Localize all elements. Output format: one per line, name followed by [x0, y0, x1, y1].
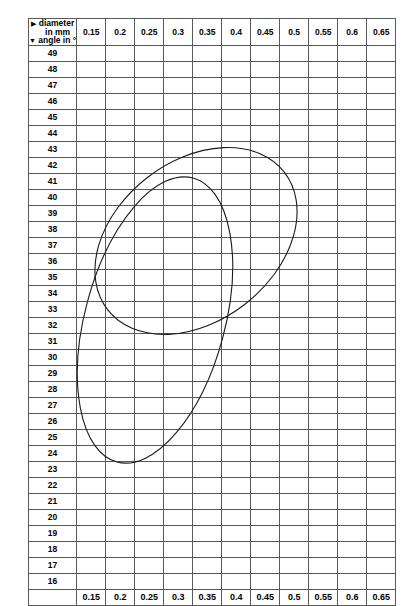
- cell-18-0.6: [338, 541, 367, 557]
- cell-45-0.5: [280, 109, 309, 125]
- cell-24-0.3: [164, 445, 193, 461]
- footer-column-0.15: 0.15: [77, 589, 106, 605]
- cell-42-0.4: [222, 157, 251, 173]
- row-header-30: 30: [29, 349, 77, 365]
- angle-label: angle in °: [38, 35, 76, 45]
- cell-17-0.4: [222, 557, 251, 573]
- row-header-25: 25: [29, 429, 77, 445]
- cell-31-0.15: [77, 333, 106, 349]
- cell-48-0.5: [280, 61, 309, 77]
- cell-23-0.45: [251, 461, 280, 477]
- cell-25-0.45: [251, 429, 280, 445]
- cell-23-0.4: [222, 461, 251, 477]
- cell-25-0.4: [222, 429, 251, 445]
- cell-18-0.2: [106, 541, 135, 557]
- cell-19-0.15: [77, 525, 106, 541]
- cell-42-0.3: [164, 157, 193, 173]
- cell-33-0.15: [77, 301, 106, 317]
- cell-28-0.4: [222, 381, 251, 397]
- cell-17-0.6: [338, 557, 367, 573]
- footer-column-0.65: 0.65: [367, 589, 396, 605]
- cell-22-0.45: [251, 477, 280, 493]
- footer-column-0.3: 0.3: [164, 589, 193, 605]
- cell-47-0.3: [164, 77, 193, 93]
- cell-48-0.55: [309, 61, 338, 77]
- footer-column-0.45: 0.45: [251, 589, 280, 605]
- table-row: 24: [29, 445, 396, 461]
- cell-47-0.65: [367, 77, 396, 93]
- cell-20-0.65: [367, 509, 396, 525]
- footer-column-0.55: 0.55: [309, 589, 338, 605]
- table-row: 36: [29, 253, 396, 269]
- cell-40-0.6: [338, 189, 367, 205]
- footer-column-0.5: 0.5: [280, 589, 309, 605]
- footer-corner: [29, 589, 77, 605]
- cell-36-0.2: [106, 253, 135, 269]
- cell-20-0.5: [280, 509, 309, 525]
- cell-29-0.15: [77, 365, 106, 381]
- cell-38-0.3: [164, 221, 193, 237]
- cell-34-0.65: [367, 285, 396, 301]
- cell-40-0.3: [164, 189, 193, 205]
- row-header-42: 42: [29, 157, 77, 173]
- cell-41-0.3: [164, 173, 193, 189]
- column-header-0.3: 0.3: [164, 19, 193, 46]
- cell-35-0.5: [280, 269, 309, 285]
- cell-31-0.65: [367, 333, 396, 349]
- cell-46-0.15: [77, 93, 106, 109]
- cell-40-0.2: [106, 189, 135, 205]
- cell-49-0.6: [338, 45, 367, 61]
- cell-26-0.5: [280, 413, 309, 429]
- column-header-0.15: 0.15: [77, 19, 106, 46]
- cell-30-0.25: [135, 349, 164, 365]
- cell-43-0.3: [164, 141, 193, 157]
- cell-18-0.15: [77, 541, 106, 557]
- cell-23-0.6: [338, 461, 367, 477]
- row-header-28: 28: [29, 381, 77, 397]
- column-header-0.4: 0.4: [222, 19, 251, 46]
- table-row: 45: [29, 109, 396, 125]
- cell-46-0.35: [193, 93, 222, 109]
- cell-19-0.35: [193, 525, 222, 541]
- cell-38-0.2: [106, 221, 135, 237]
- row-header-27: 27: [29, 397, 77, 413]
- cell-23-0.3: [164, 461, 193, 477]
- table-row: 40: [29, 189, 396, 205]
- cell-22-0.35: [193, 477, 222, 493]
- cell-28-0.2: [106, 381, 135, 397]
- cell-36-0.3: [164, 253, 193, 269]
- cell-36-0.65: [367, 253, 396, 269]
- cell-47-0.15: [77, 77, 106, 93]
- cell-33-0.2: [106, 301, 135, 317]
- table-row: 32: [29, 317, 396, 333]
- cell-48-0.6: [338, 61, 367, 77]
- cell-48-0.3: [164, 61, 193, 77]
- cell-33-0.45: [251, 301, 280, 317]
- cell-24-0.35: [193, 445, 222, 461]
- cell-38-0.65: [367, 221, 396, 237]
- cell-33-0.5: [280, 301, 309, 317]
- cell-39-0.3: [164, 205, 193, 221]
- column-header-0.5: 0.5: [280, 19, 309, 46]
- cell-49-0.55: [309, 45, 338, 61]
- cell-22-0.25: [135, 477, 164, 493]
- cell-27-0.5: [280, 397, 309, 413]
- cell-23-0.65: [367, 461, 396, 477]
- cell-32-0.2: [106, 317, 135, 333]
- cell-20-0.2: [106, 509, 135, 525]
- cell-49-0.2: [106, 45, 135, 61]
- row-header-48: 48: [29, 61, 77, 77]
- cell-30-0.15: [77, 349, 106, 365]
- cell-33-0.65: [367, 301, 396, 317]
- cell-20-0.45: [251, 509, 280, 525]
- cell-21-0.25: [135, 493, 164, 509]
- cell-25-0.3: [164, 429, 193, 445]
- column-header-0.45: 0.45: [251, 19, 280, 46]
- cell-42-0.6: [338, 157, 367, 173]
- cell-36-0.4: [222, 253, 251, 269]
- table-row: 34: [29, 285, 396, 301]
- cell-23-0.35: [193, 461, 222, 477]
- cell-29-0.35: [193, 365, 222, 381]
- row-header-17: 17: [29, 557, 77, 573]
- cell-31-0.4: [222, 333, 251, 349]
